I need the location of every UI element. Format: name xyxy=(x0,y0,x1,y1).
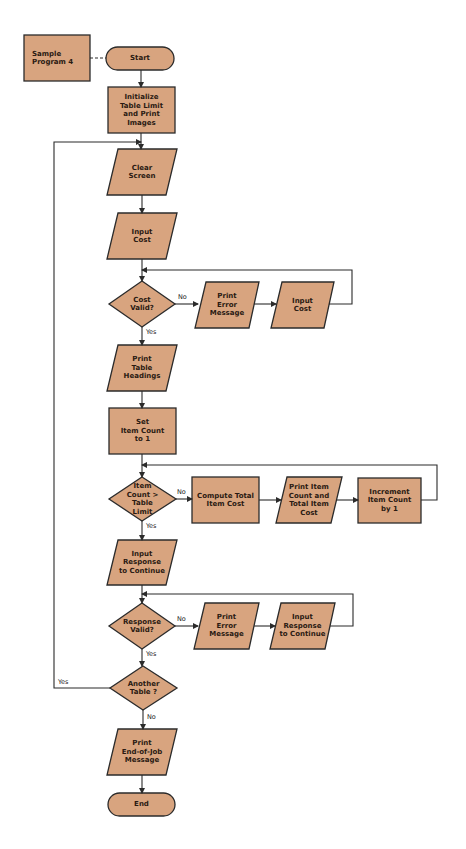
edge-label-item-no: No xyxy=(177,488,186,496)
edge-label-another-yes: Yes xyxy=(58,678,69,686)
initialize-process xyxy=(108,87,175,133)
edge-label-cost-no: No xyxy=(178,293,187,301)
response-valid-decision xyxy=(109,603,175,649)
input-cost-io xyxy=(107,213,177,259)
item-count-decision xyxy=(109,477,176,521)
edge-label-another-no: No xyxy=(147,713,156,721)
set-item-count-process xyxy=(109,408,176,454)
print-item-count-io xyxy=(276,477,342,523)
cost-valid-decision xyxy=(109,281,175,327)
input-response-io xyxy=(107,540,177,585)
increment-process xyxy=(358,478,421,523)
compute-total-process xyxy=(192,477,259,523)
edge-label-response-yes: Yes xyxy=(146,650,157,658)
clear-screen-io xyxy=(107,149,177,195)
end-terminal xyxy=(108,793,175,816)
print-headings-io xyxy=(107,345,177,391)
input-response-2-io xyxy=(270,603,335,649)
print-error-1-io xyxy=(195,282,259,328)
edge-label-item-yes: Yes xyxy=(146,522,157,530)
input-cost-2-io xyxy=(271,282,334,328)
annotation-box-sample-program xyxy=(24,35,90,81)
start-terminal xyxy=(106,47,174,70)
edge-label-cost-yes: Yes xyxy=(146,328,157,336)
flowchart-canvas xyxy=(0,0,466,849)
edge-label-response-no: No xyxy=(177,615,186,623)
another-table-decision xyxy=(110,666,177,710)
print-end-io xyxy=(107,729,177,775)
print-error-2-io xyxy=(194,603,259,649)
